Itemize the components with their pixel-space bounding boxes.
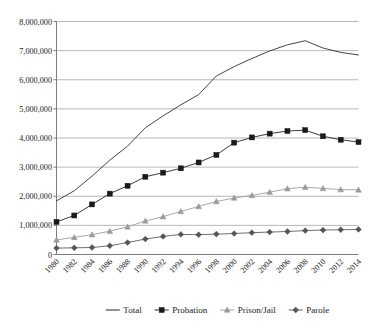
- data-point-marker: [196, 232, 202, 238]
- series-line: [57, 130, 359, 222]
- x-tick-label-1992: 1992: [150, 257, 168, 275]
- x-tick-label-1986: 1986: [96, 257, 114, 275]
- series-parole: [54, 227, 362, 251]
- legend-item-parole[interactable]: Parole: [289, 305, 330, 315]
- legend-swatch-marker: [159, 308, 164, 313]
- series-probation: [54, 128, 361, 225]
- legend-item-probation[interactable]: Probation: [155, 305, 208, 315]
- data-point-marker: [142, 236, 148, 242]
- x-tick-label-2012: 2012: [327, 257, 345, 275]
- chart-legend: TotalProbationPrison/JailParole: [106, 305, 329, 315]
- data-point-marker: [161, 170, 166, 175]
- data-point-marker: [338, 137, 343, 142]
- x-tick-label-2006: 2006: [274, 257, 292, 275]
- y-axis-tick-labels: 01,000,0002,000,0003,000,0004,000,0005,0…: [19, 18, 56, 260]
- data-point-marker: [320, 227, 326, 233]
- x-tick-label-1998: 1998: [203, 257, 221, 275]
- legend-item-label: Probation: [172, 305, 207, 315]
- data-point-marker: [89, 245, 95, 251]
- y-tick-label-5000000: 5,000,000: [19, 105, 52, 114]
- data-point-marker: [356, 227, 362, 233]
- x-tick-label-1994: 1994: [168, 257, 186, 275]
- y-tick-label-8000000: 8,000,000: [19, 18, 52, 27]
- data-point-marker: [303, 128, 308, 133]
- x-tick-label-1984: 1984: [79, 257, 97, 275]
- data-point-marker: [338, 227, 344, 233]
- data-point-marker: [71, 245, 77, 251]
- data-point-marker: [125, 240, 131, 246]
- data-point-marker: [107, 243, 113, 249]
- legend-item-label: Total: [123, 305, 142, 315]
- data-point-marker: [160, 234, 166, 240]
- correctional-population-line-chart: 01,000,0002,000,0003,000,0004,000,0005,0…: [0, 0, 375, 329]
- data-point-marker: [90, 202, 95, 207]
- series-total: [57, 41, 359, 201]
- x-tick-label-2002: 2002: [239, 257, 257, 275]
- data-point-marker: [54, 219, 59, 224]
- data-point-marker: [232, 140, 237, 145]
- y-tick-label-4000000: 4,000,000: [19, 134, 52, 143]
- gridlines: [57, 22, 359, 255]
- y-tick-label-2000000: 2,000,000: [19, 192, 52, 201]
- data-point-marker: [72, 213, 77, 218]
- series-line: [57, 187, 359, 240]
- data-point-marker: [178, 166, 183, 171]
- y-tick-label-0: 0: [48, 251, 52, 260]
- x-tick-label-1980: 1980: [43, 257, 61, 275]
- legend-item-label: Parole: [306, 305, 329, 315]
- data-point-marker: [54, 245, 60, 251]
- y-tick-label-7000000: 7,000,000: [19, 47, 52, 56]
- data-point-marker: [125, 183, 130, 188]
- x-tick-label-1988: 1988: [114, 257, 132, 275]
- data-point-marker: [178, 232, 184, 238]
- data-point-marker: [302, 228, 308, 234]
- data-point-marker: [249, 230, 255, 236]
- data-point-marker: [196, 160, 201, 165]
- series-prison-jail: [54, 184, 362, 242]
- data-point-marker: [320, 134, 325, 139]
- y-tick-label-6000000: 6,000,000: [19, 76, 52, 85]
- data-point-marker: [285, 229, 291, 235]
- data-point-marker: [214, 152, 219, 157]
- x-axis-tick-labels: 1980198219841986198819901992199419961998…: [43, 257, 363, 275]
- data-point-marker: [356, 140, 361, 145]
- data-point-marker: [143, 174, 148, 179]
- data-point-marker: [213, 231, 219, 237]
- x-tick-label-1990: 1990: [132, 257, 150, 275]
- data-point-marker: [107, 191, 112, 196]
- series-line: [57, 229, 359, 248]
- series-line: [57, 41, 359, 201]
- y-tick-label-1000000: 1,000,000: [19, 221, 52, 230]
- data-point-marker: [285, 129, 290, 134]
- data-point-marker: [231, 231, 237, 237]
- data-series: [54, 41, 362, 251]
- legend-swatch-marker: [293, 307, 299, 313]
- x-tick-label-2008: 2008: [292, 257, 310, 275]
- chart-canvas: 01,000,0002,000,0003,000,0004,000,0005,0…: [0, 0, 375, 329]
- legend-item-label: Prison/Jail: [238, 305, 277, 315]
- legend-item-prison-jail[interactable]: Prison/Jail: [220, 305, 276, 315]
- x-tick-label-2004: 2004: [256, 257, 274, 275]
- x-tick-label-1982: 1982: [61, 257, 79, 275]
- y-tick-label-3000000: 3,000,000: [19, 163, 52, 172]
- x-tick-label-2000: 2000: [221, 257, 239, 275]
- data-point-marker: [249, 135, 254, 140]
- x-tick-label-1996: 1996: [185, 257, 203, 275]
- x-tick-label-2014: 2014: [345, 257, 363, 275]
- legend-item-total[interactable]: Total: [106, 305, 142, 315]
- data-point-marker: [267, 131, 272, 136]
- x-tick-label-2010: 2010: [310, 257, 328, 275]
- data-point-marker: [267, 229, 273, 235]
